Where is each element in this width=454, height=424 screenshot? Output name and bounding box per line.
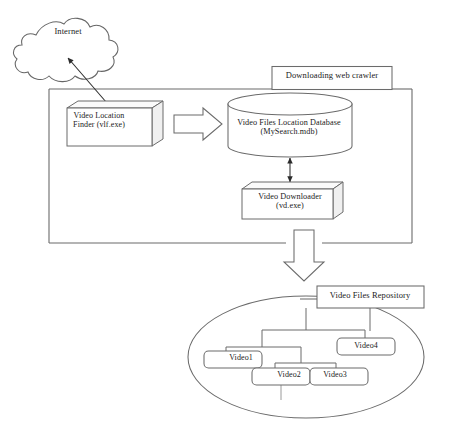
database-component-label: Video Files Location Database (MySearch.… [228,118,350,136]
diagram-canvas: Internet Downloading web crawler Video L… [0,0,454,424]
downloader-component-label: Video Downloader (vd.exe) [242,192,338,210]
vlf-component-label: Video Location Finder (vlf.exe) [60,112,138,130]
video1-label: Video1 [219,354,263,363]
block-arrow-vlf-to-database [174,108,222,140]
system-boundary-label: Downloading web crawler [274,71,390,81]
internet-cloud-label: Internet [38,27,98,37]
video4-label: Video4 [344,342,388,351]
video2-label: Video2 [267,371,311,380]
repository-label: Video Files Repository [320,291,420,301]
block-arrow-system-to-repository [284,230,324,281]
video3-label: Video3 [313,371,357,380]
